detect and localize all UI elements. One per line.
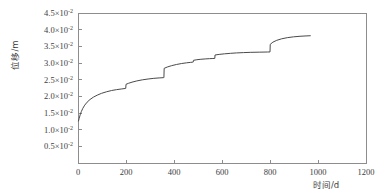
y-tick-label: 3.5×10-2 <box>44 41 73 51</box>
x-axis-ticks <box>78 160 366 164</box>
chart-figure: 0.5×10-21.0×10-21.5×10-22.0×10-22.5×10-2… <box>0 0 385 196</box>
y-tick-label: 0.5×10-2 <box>44 141 73 151</box>
y-tick-label: 4.5×10-2 <box>44 8 73 18</box>
plot-frame <box>78 13 366 163</box>
y-axis-tick-labels: 0.5×10-21.0×10-21.5×10-22.0×10-22.5×10-2… <box>44 8 73 151</box>
x-tick-label: 1200 <box>358 167 375 177</box>
y-tick-label: 2.0×10-2 <box>44 91 73 101</box>
displacement-time-line-chart: 0.5×10-21.0×10-21.5×10-22.0×10-22.5×10-2… <box>0 0 385 196</box>
x-axis-tick-labels: 020040060080010001200 <box>76 167 375 177</box>
x-tick-label: 200 <box>120 167 133 177</box>
y-axis-title: 位移/m <box>10 40 20 69</box>
y-tick-label: 1.0×10-2 <box>44 125 73 135</box>
x-tick-label: 1000 <box>310 167 327 177</box>
y-axis-title-group: 位移/m <box>10 40 20 69</box>
x-tick-label: 400 <box>168 167 181 177</box>
y-axis-ticks <box>78 13 82 146</box>
y-tick-label: 2.5×10-2 <box>44 75 73 85</box>
y-tick-label: 4.0×10-2 <box>44 25 73 35</box>
x-tick-label: 0 <box>76 167 80 177</box>
displacement-curve <box>78 36 310 121</box>
y-tick-label: 1.5×10-2 <box>44 108 73 118</box>
data-series-group <box>78 36 310 121</box>
axis-frame-path <box>78 13 366 163</box>
x-axis-title-group: 时间/d <box>313 180 339 190</box>
x-axis-title: 时间/d <box>313 180 339 190</box>
x-tick-label: 800 <box>264 167 277 177</box>
y-tick-label: 3.0×10-2 <box>44 58 73 68</box>
x-tick-label: 600 <box>216 167 229 177</box>
